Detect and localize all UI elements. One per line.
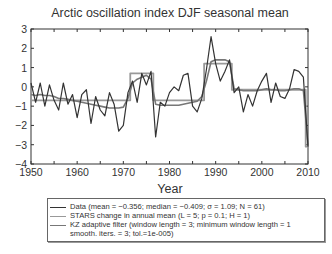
y-tick-label: −3 (15, 139, 27, 151)
legend-swatch-kz (50, 225, 66, 226)
y-tick-label: −1 (15, 100, 27, 112)
x-tick-label: 1950 (19, 166, 43, 178)
x-tick-label: 2010 (296, 166, 320, 178)
legend-label-data: Data (mean = −0.356; median = −0.409; σ … (70, 202, 265, 211)
x-tick-label: 1970 (112, 166, 136, 178)
legend-item-stars: STARS change in annual mean (L = 5; p = … (50, 211, 250, 220)
x-tick-label: 1960 (65, 166, 89, 178)
legend: Data (mean = −0.356; median = −0.409; σ … (47, 198, 325, 242)
legend-swatch-stars (50, 216, 66, 217)
y-tick-label: 1 (21, 62, 27, 74)
series-line-0 (31, 37, 308, 147)
x-tick-label: 1990 (204, 166, 228, 178)
x-tick-label: 1980 (158, 166, 182, 178)
y-tick-label: 2 (21, 42, 27, 54)
legend-label-kz-cont: smooth. iters. = 3; tol.=1e-005) (70, 229, 173, 238)
series-line-2 (31, 60, 308, 145)
y-axis: 3210−1−2−3−4 (15, 23, 308, 170)
legend-label-stars: STARS change in annual mean (L = 5; p = … (70, 211, 250, 220)
chart-title: Arctic oscillation index DJF seasonal me… (51, 6, 289, 20)
legend-item-data: Data (mean = −0.356; median = −0.409; σ … (50, 202, 265, 211)
legend-swatch-data (50, 207, 66, 208)
plot-area (31, 37, 308, 147)
chart: Arctic oscillation index DJF seasonal me… (0, 0, 332, 196)
legend-item-kz: KZ adaptive filter (window length = 3; m… (50, 220, 291, 229)
y-tick-label: 0 (21, 81, 27, 93)
x-tick-label: 2000 (250, 166, 274, 178)
y-tick-label: 3 (21, 23, 27, 35)
legend-item-kz-cont: smooth. iters. = 3; tol.=1e-005) (70, 229, 173, 238)
x-axis: 1950196019701980199020002010 (19, 29, 320, 178)
y-tick-label: −2 (15, 119, 27, 131)
x-axis-label: Year (157, 182, 182, 196)
legend-label-kz: KZ adaptive filter (window length = 3; m… (70, 220, 291, 229)
